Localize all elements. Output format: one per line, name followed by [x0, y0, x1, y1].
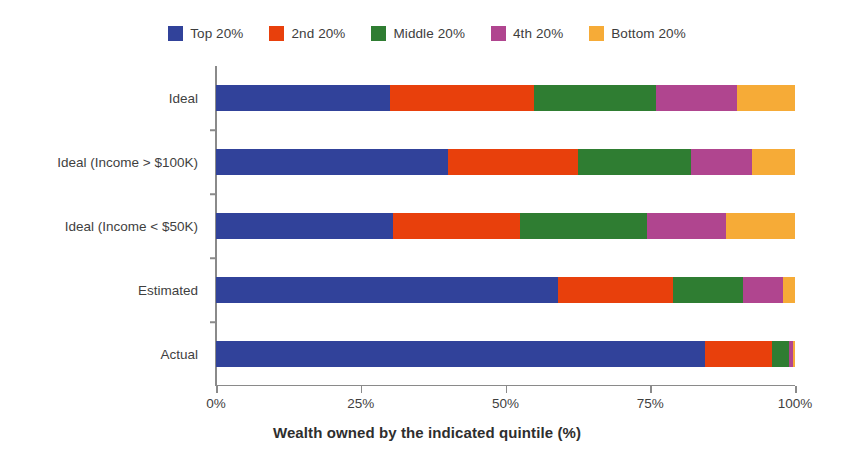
bar-segment[interactable]	[216, 341, 705, 367]
bar-segment[interactable]	[743, 277, 784, 303]
x-axis-tick-mark	[506, 386, 508, 393]
bar-segment[interactable]	[578, 149, 691, 175]
bar-segment[interactable]	[772, 341, 789, 367]
x-axis-tick-mark	[650, 386, 652, 393]
chart-legend: Top 20%2nd 20%Middle 20%4th 20%Bottom 20…	[0, 26, 854, 41]
legend-item[interactable]: Middle 20%	[371, 26, 465, 41]
x-axis-tick-mark	[361, 386, 363, 393]
legend-swatch-icon	[371, 26, 386, 41]
x-axis-tick-label: 50%	[492, 396, 519, 411]
bar-segment[interactable]	[673, 277, 742, 303]
y-axis-label: Ideal (Income < $50K)	[65, 219, 198, 234]
bar-row[interactable]	[216, 149, 795, 175]
bar-segment[interactable]	[793, 341, 795, 367]
y-axis-label: Ideal	[169, 91, 198, 106]
bar-segment[interactable]	[393, 213, 520, 239]
legend-item[interactable]: Bottom 20%	[589, 26, 686, 41]
legend-item[interactable]: 4th 20%	[491, 26, 563, 41]
bar-segment[interactable]	[726, 213, 795, 239]
bar-row[interactable]	[216, 85, 795, 111]
bar-segment[interactable]	[737, 85, 795, 111]
legend-item[interactable]: Top 20%	[168, 26, 243, 41]
legend-label: Top 20%	[190, 26, 243, 41]
bar-segment[interactable]	[216, 149, 448, 175]
legend-label: Bottom 20%	[611, 26, 686, 41]
bar-segment[interactable]	[216, 213, 393, 239]
x-axis-tick-mark	[216, 386, 218, 393]
legend-swatch-icon	[168, 26, 183, 41]
bar-row[interactable]	[216, 277, 795, 303]
bar-segment[interactable]	[783, 277, 795, 303]
bar-segment[interactable]	[705, 341, 772, 367]
x-axis-title: Wealth owned by the indicated quintile (…	[0, 424, 854, 441]
legend-item[interactable]: 2nd 20%	[269, 26, 345, 41]
bar-row[interactable]	[216, 341, 795, 367]
legend-swatch-icon	[491, 26, 506, 41]
legend-swatch-icon	[589, 26, 604, 41]
bar-row[interactable]	[216, 213, 795, 239]
bar-segment[interactable]	[216, 85, 390, 111]
bar-segment[interactable]	[752, 149, 795, 175]
x-axis-tick-mark	[795, 386, 797, 393]
bar-segment[interactable]	[558, 277, 674, 303]
bar-segment[interactable]	[448, 149, 578, 175]
stacked-bar-chart: Top 20%2nd 20%Middle 20%4th 20%Bottom 20…	[0, 0, 854, 466]
y-axis-labels: IdealIdeal (Income > $100K)Ideal (Income…	[0, 66, 210, 386]
x-axis-ticks: 0%25%50%75%100%	[216, 386, 795, 426]
legend-label: Middle 20%	[393, 26, 465, 41]
bar-segment[interactable]	[691, 149, 752, 175]
bar-segment[interactable]	[390, 85, 535, 111]
bar-segment[interactable]	[647, 213, 725, 239]
x-axis-tick-label: 25%	[347, 396, 374, 411]
legend-label: 2nd 20%	[291, 26, 345, 41]
legend-swatch-icon	[269, 26, 284, 41]
legend-label: 4th 20%	[513, 26, 563, 41]
x-axis-tick-label: 0%	[206, 396, 226, 411]
plot-area	[216, 66, 795, 386]
y-axis-label: Actual	[160, 347, 198, 362]
bar-segment[interactable]	[520, 213, 647, 239]
x-axis-tick-label: 75%	[637, 396, 664, 411]
y-axis-label: Ideal (Income > $100K)	[57, 155, 198, 170]
x-axis-tick-label: 100%	[778, 396, 813, 411]
bar-segment[interactable]	[216, 277, 558, 303]
y-axis-label: Estimated	[138, 283, 198, 298]
bar-segment[interactable]	[534, 85, 656, 111]
bar-segment[interactable]	[656, 85, 737, 111]
